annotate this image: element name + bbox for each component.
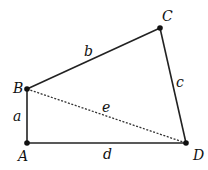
vertex-label-a: A (16, 148, 28, 164)
edge-label-c: c (176, 74, 184, 90)
edge-label-b: b (84, 43, 93, 59)
quadrilateral-diagram: A B C D a b c d e (0, 0, 208, 170)
edge-label-a: a (13, 108, 21, 124)
edge-b (27, 28, 160, 89)
vertex-label-b: B (12, 80, 23, 96)
edge-e-diagonal (27, 89, 186, 143)
edge-label-d: d (103, 146, 112, 162)
vertex-label-c: C (162, 8, 173, 24)
edge-label-e: e (102, 99, 110, 115)
vertex-a-dot (24, 140, 30, 146)
vertex-d-dot (183, 140, 189, 146)
vertex-label-d: D (192, 147, 204, 163)
vertex-b-dot (24, 86, 30, 92)
vertex-c-dot (157, 25, 163, 31)
